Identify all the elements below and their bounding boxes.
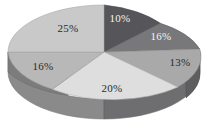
pie-slice-25-percent[interactable] [8,5,104,52]
slice-label-20-percent: 20% [102,82,123,94]
slice-label-25-percent: 25% [58,22,79,34]
pie-chart: 10% 16% 13% 20% 16% 25% [0,0,209,135]
slice-label-16-percent-upper-right: 16% [151,30,172,42]
slice-label-13-percent: 13% [170,56,191,68]
slice-label-10-percent: 10% [110,12,131,24]
pie-chart-svg: 10% 16% 13% 20% 16% 25% [0,0,209,135]
slice-label-16-percent-left: 16% [33,60,54,72]
